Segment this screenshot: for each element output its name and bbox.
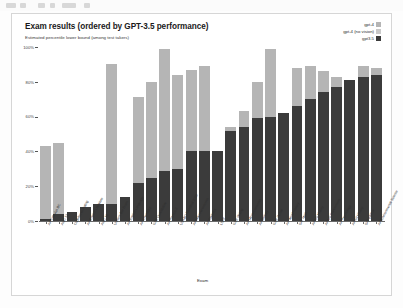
bar-segment-gpt4 [358, 66, 369, 76]
bar-segment-gpt4 [186, 70, 197, 152]
y-axis-tick-mark [35, 221, 38, 222]
bar-segment-gpt4 [252, 82, 263, 119]
bar-segment-gpt35 [278, 113, 289, 221]
bar-segment-gpt35 [358, 77, 369, 221]
bar-segment-gpt4 [239, 111, 250, 127]
bar-group[interactable] [265, 49, 276, 221]
bar-segment-gpt35 [265, 117, 276, 221]
bar-segment-gpt35 [305, 99, 316, 221]
toolbar-item[interactable] [38, 3, 45, 8]
bar-segment-gpt4 [292, 68, 303, 106]
bar-segment-gpt35 [318, 92, 329, 221]
bar-group[interactable] [292, 68, 303, 221]
bar-series-container [39, 47, 383, 221]
y-axis-tick-label: 0% [12, 219, 34, 224]
bar-segment-gpt4 [133, 97, 144, 182]
bar-group[interactable] [371, 68, 382, 221]
toolbar-item[interactable] [6, 3, 16, 8]
y-axis-tick-label: 80% [12, 80, 34, 85]
bar-segment-gpt35 [344, 80, 355, 221]
y-axis-tick-mark [35, 186, 38, 187]
toolbar-item[interactable] [84, 3, 90, 8]
x-axis-title: Exam [12, 278, 393, 283]
bar-segment-gpt4 [371, 68, 382, 75]
bar-group[interactable] [318, 71, 329, 221]
bar-group[interactable] [146, 82, 157, 221]
y-axis-tick-mark [35, 151, 38, 152]
bar-group[interactable] [278, 113, 289, 221]
bar-segment-gpt4 [318, 71, 329, 92]
y-axis-tick-mark [35, 47, 38, 48]
bar-segment-gpt4 [159, 49, 170, 171]
bar-segment-gpt4 [331, 77, 342, 87]
bar-group[interactable] [159, 49, 170, 221]
toolbar-item[interactable] [62, 3, 76, 8]
y-axis-tick-label: 20% [12, 184, 34, 189]
bar-group[interactable] [344, 80, 355, 221]
bar-segment-gpt4 [146, 82, 157, 178]
bar-segment-gpt35 [371, 75, 382, 221]
chart-plot-area: 0%20%40%60%80%100% AP Calculus BCAMC 12C… [12, 14, 393, 297]
bar-segment-gpt4 [106, 64, 117, 203]
bar-segment-gpt4 [172, 75, 183, 169]
bar-segment-gpt4 [305, 66, 316, 99]
y-axis-tick-mark [35, 117, 38, 118]
y-axis-tick-label: 40% [12, 149, 34, 154]
bar-segment-gpt4 [265, 49, 276, 117]
bar-group[interactable] [40, 146, 51, 221]
toolbar-item[interactable] [50, 3, 55, 8]
y-axis-tick-label: 100% [12, 45, 34, 50]
bar-group[interactable] [358, 66, 369, 221]
screen-root: Exam results (ordered by GPT-3.5 perform… [0, 0, 403, 308]
y-axis-tick-mark [35, 82, 38, 83]
bar-segment-gpt35 [225, 131, 236, 221]
bar-segment-gpt4 [40, 146, 51, 219]
bar-group[interactable] [172, 75, 183, 221]
bar-group[interactable] [305, 66, 316, 221]
y-axis-tick-label: 60% [12, 114, 34, 119]
bar-group[interactable] [239, 111, 250, 221]
bar-segment-gpt4 [199, 66, 210, 151]
chart-card: Exam results (ordered by GPT-3.5 perform… [11, 13, 392, 296]
bar-group[interactable] [225, 127, 236, 221]
toolbar-item[interactable] [20, 3, 26, 8]
bar-group[interactable] [106, 64, 117, 221]
browser-toolbar-strip [0, 0, 403, 11]
